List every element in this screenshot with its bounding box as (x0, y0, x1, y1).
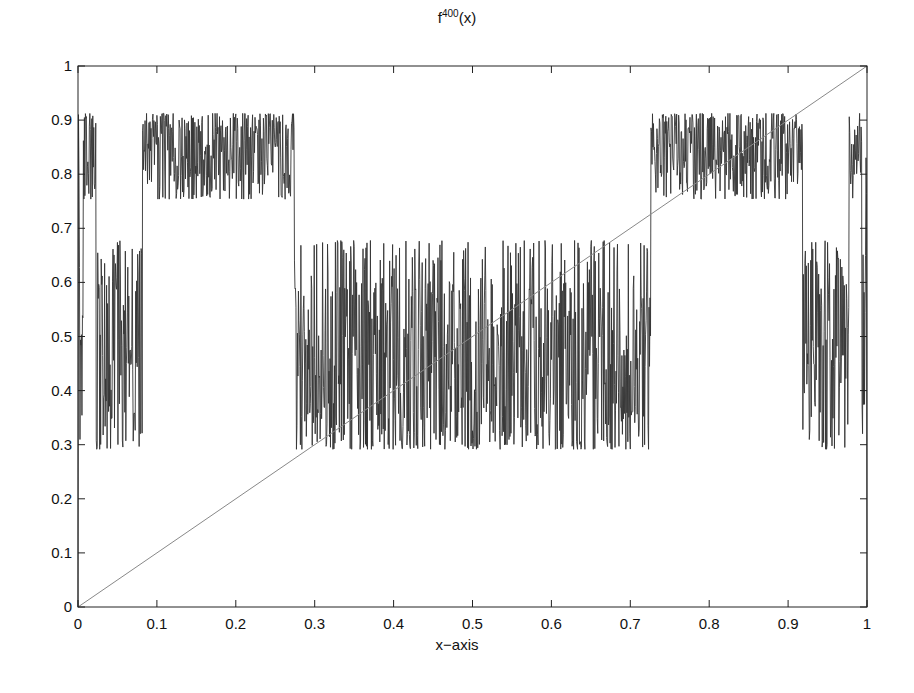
y-tick-label: 0.6 (51, 273, 72, 290)
y-tick-label: 0.2 (51, 490, 72, 507)
x-tick-label: 0 (74, 615, 82, 632)
x-tick-label: 1 (863, 615, 871, 632)
y-tick-label: 0 (64, 598, 72, 615)
y-tick-label: 0.4 (51, 382, 72, 399)
chart-figure: 00.10.20.30.40.50.60.70.80.9100.10.20.30… (0, 0, 914, 693)
x-tick-label: 0.6 (541, 615, 562, 632)
x-tick-label: 0.2 (225, 615, 246, 632)
y-tick-label: 0.3 (51, 436, 72, 453)
y-tick-label: 1 (64, 57, 72, 74)
x-tick-label: 0.3 (304, 615, 325, 632)
iterate-curve (78, 113, 867, 607)
y-tick-label: 0.8 (51, 165, 72, 182)
x-tick-label: 0.1 (146, 615, 167, 632)
y-tick-label: 0.7 (51, 219, 72, 236)
y-tick-label: 0.5 (51, 328, 72, 345)
x-axis-label: x−axis (0, 636, 914, 653)
x-tick-label: 0.5 (462, 615, 483, 632)
x-tick-label: 0.7 (620, 615, 641, 632)
x-tick-label: 0.8 (699, 615, 720, 632)
x-tick-label: 0.4 (383, 615, 404, 632)
y-tick-label: 0.1 (51, 544, 72, 561)
x-tick-label: 0.9 (778, 615, 799, 632)
plot-area (78, 66, 867, 607)
y-tick-label: 0.9 (51, 111, 72, 128)
